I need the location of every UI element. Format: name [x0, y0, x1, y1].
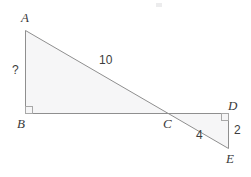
scan-speck [156, 3, 162, 7]
figure-canvas [0, 0, 251, 177]
vertex-label-A: A [21, 11, 29, 24]
vertex-label-E: E [226, 152, 234, 165]
geometry-figure: A B C D E ? 10 4 2 [0, 0, 251, 177]
side-label-ce: 4 [196, 129, 203, 141]
side-label-ab: ? [12, 64, 19, 76]
vertex-label-C: C [163, 117, 172, 130]
side-label-ac: 10 [99, 54, 112, 66]
side-label-de: 2 [234, 124, 241, 136]
vertex-label-D: D [228, 99, 237, 112]
vertex-label-B: B [17, 117, 25, 130]
